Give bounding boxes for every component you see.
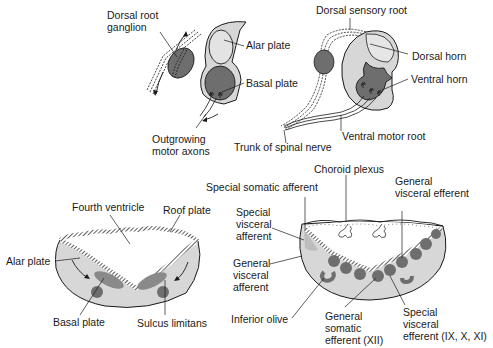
label-alar-plate-top: Alar plate: [246, 39, 290, 51]
label-outgrowing-motor-axons: Outgrowing motor axons: [152, 133, 210, 157]
nucleus-right: [157, 286, 169, 298]
label-special-visceral-efferent: Special visceral efferent (IX, X, XI): [403, 306, 487, 342]
label-sulcus-limitans: Sulcus limitans: [137, 317, 207, 329]
label-trunk-of-spinal-nerve: Trunk of spinal nerve: [234, 141, 332, 153]
label-ventral-motor-root: Ventral motor root: [342, 130, 425, 142]
alar-plate-region: [209, 30, 233, 64]
panel-top-left: [147, 22, 246, 128]
panel-bottom-left: [55, 215, 200, 315]
label-dorsal-root-ganglion: Dorsal root ganglion: [107, 9, 158, 33]
label-dorsal-horn: Dorsal horn: [412, 50, 466, 62]
panel-top-right: [281, 18, 408, 143]
label-general-somatic-efferent: General somatic efferent (XII): [325, 310, 383, 346]
label-choroid-plexus: Choroid plexus: [314, 163, 384, 175]
label-special-somatic-afferent: Special somatic afferent: [206, 181, 318, 193]
dorsal-root-ganglion: [163, 43, 200, 83]
dorsal-root-ganglion-2: [314, 50, 334, 74]
label-ventral-horn: Ventral horn: [411, 73, 468, 85]
label-basal-plate-top: Basal plate: [246, 77, 298, 89]
label-roof-plate: Roof plate: [163, 204, 211, 216]
nucleus-left: [91, 286, 103, 298]
label-inferior-olive: Inferior olive: [231, 313, 288, 325]
label-special-visceral-afferent: Special visceral afferent: [236, 206, 272, 242]
label-dorsal-sensory-root: Dorsal sensory root: [316, 4, 407, 16]
label-general-visceral-efferent: General visceral efferent: [395, 175, 469, 199]
label-general-visceral-afferent: General visceral afferent: [233, 257, 270, 293]
label-basal-plate-bottom: Basal plate: [53, 316, 105, 328]
label-fourth-ventricle: Fourth ventricle: [72, 201, 144, 213]
label-alar-plate-bottom: Alar plate: [6, 255, 50, 267]
